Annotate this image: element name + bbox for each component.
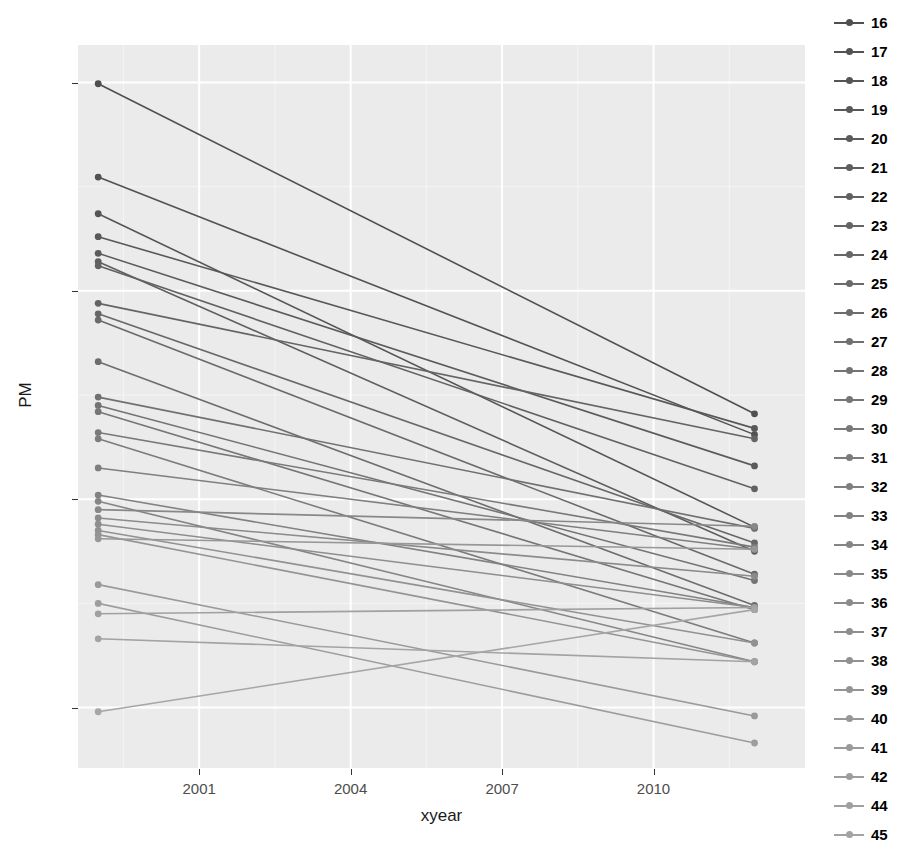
- y-axis-title: PM: [16, 355, 36, 435]
- legend-label: 42: [871, 768, 887, 785]
- legend-dot-icon: [846, 164, 853, 171]
- legend-dot-icon: [846, 77, 853, 84]
- legend-item-37[interactable]: 37: [820, 617, 913, 646]
- legend-item-26[interactable]: 26: [820, 298, 913, 327]
- legend-key-icon: [834, 594, 864, 612]
- plot-panel: [78, 45, 805, 768]
- legend-label: 38: [871, 652, 887, 669]
- plot-canvas: [78, 45, 805, 768]
- legend-item-25[interactable]: 25: [820, 269, 913, 298]
- legend-key-icon: [834, 797, 864, 815]
- legend-key-icon: [834, 275, 864, 293]
- legend-key-icon: [834, 449, 864, 467]
- legend-item-34[interactable]: 34: [820, 530, 913, 559]
- x-tick-label: 2004: [311, 780, 391, 797]
- legend-dot-icon: [846, 657, 853, 664]
- legend-dot-icon: [846, 309, 853, 316]
- legend-item-42[interactable]: 42: [820, 762, 913, 791]
- legend-item-16[interactable]: 16: [820, 8, 913, 37]
- legend-item-40[interactable]: 40: [820, 704, 913, 733]
- legend-key-icon: [834, 72, 864, 90]
- legend-key-icon: [834, 420, 864, 438]
- legend-item-45[interactable]: 45: [820, 820, 913, 849]
- legend-key-icon: [834, 565, 864, 583]
- legend-item-30[interactable]: 30: [820, 414, 913, 443]
- legend-key-icon: [834, 217, 864, 235]
- legend-dot-icon: [846, 222, 853, 229]
- legend-key-icon: [834, 391, 864, 409]
- legend-item-38[interactable]: 38: [820, 646, 913, 675]
- legend-item-32[interactable]: 32: [820, 472, 913, 501]
- legend-item-29[interactable]: 29: [820, 385, 913, 414]
- x-tick-label: 2007: [462, 780, 542, 797]
- legend-dot-icon: [846, 48, 853, 55]
- legend-item-23[interactable]: 23: [820, 211, 913, 240]
- y-tick-mark: [72, 708, 78, 709]
- legend-label: 33: [871, 507, 887, 524]
- x-tick-mark: [199, 769, 200, 775]
- legend-dot-icon: [846, 135, 853, 142]
- legend-key-icon: [834, 739, 864, 757]
- legend-item-22[interactable]: 22: [820, 182, 913, 211]
- legend-dot-icon: [846, 251, 853, 258]
- legend-key-icon: [834, 130, 864, 148]
- x-tick-mark: [351, 769, 352, 775]
- legend-key-icon: [834, 623, 864, 641]
- legend-item-21[interactable]: 21: [820, 153, 913, 182]
- legend-key-icon: [834, 304, 864, 322]
- legend-dot-icon: [846, 106, 853, 113]
- legend-label: 30: [871, 420, 887, 437]
- legend-item-20[interactable]: 20: [820, 124, 913, 153]
- legend-label: 25: [871, 275, 887, 292]
- legend-key-icon: [834, 768, 864, 786]
- legend-dot-icon: [846, 831, 853, 838]
- legend-item-44[interactable]: 44: [820, 791, 913, 820]
- legend-item-28[interactable]: 28: [820, 356, 913, 385]
- x-tick-mark: [502, 769, 503, 775]
- legend-dot-icon: [846, 193, 853, 200]
- legend-dot-icon: [846, 396, 853, 403]
- legend-key-icon: [834, 507, 864, 525]
- legend-item-35[interactable]: 35: [820, 559, 913, 588]
- legend-key-icon: [834, 14, 864, 32]
- legend-label: 20: [871, 130, 887, 147]
- legend-item-31[interactable]: 31: [820, 443, 913, 472]
- x-axis-title: xyear: [78, 806, 805, 826]
- legend-item-24[interactable]: 24: [820, 240, 913, 269]
- legend-dot-icon: [846, 802, 853, 809]
- legend-item-17[interactable]: 17: [820, 37, 913, 66]
- legend-item-18[interactable]: 18: [820, 66, 913, 95]
- legend-dot-icon: [846, 338, 853, 345]
- legend-key-icon: [834, 246, 864, 264]
- legend-dot-icon: [846, 483, 853, 490]
- legend-key-icon: [834, 652, 864, 670]
- legend-label: 27: [871, 333, 887, 350]
- legend-dot-icon: [846, 686, 853, 693]
- legend-dot-icon: [846, 570, 853, 577]
- legend-dot-icon: [846, 773, 853, 780]
- plot-area: 5101520 2001200420072010 xyear PM: [0, 0, 820, 852]
- legend-item-27[interactable]: 27: [820, 327, 913, 356]
- legend-label: 31: [871, 449, 887, 466]
- legend-label: 39: [871, 681, 887, 698]
- legend-dot-icon: [846, 599, 853, 606]
- legend-item-39[interactable]: 39: [820, 675, 913, 704]
- legend-item-41[interactable]: 41: [820, 733, 913, 762]
- y-tick-mark: [72, 83, 78, 84]
- legend-dot-icon: [846, 19, 853, 26]
- legend-key-icon: [834, 43, 864, 61]
- legend-item-36[interactable]: 36: [820, 588, 913, 617]
- legend-label: 29: [871, 391, 887, 408]
- x-tick-label: 2001: [159, 780, 239, 797]
- legend-label: 44: [871, 797, 887, 814]
- legend-label: 19: [871, 101, 887, 118]
- legend-key-icon: [834, 478, 864, 496]
- legend-item-33[interactable]: 33: [820, 501, 913, 530]
- legend: 1617181920212223242526272829303132333435…: [820, 0, 913, 852]
- legend-label: 40: [871, 710, 887, 727]
- legend-item-19[interactable]: 19: [820, 95, 913, 124]
- legend-key-icon: [834, 159, 864, 177]
- legend-label: 18: [871, 72, 887, 89]
- legend-label: 41: [871, 739, 887, 756]
- legend-label: 32: [871, 478, 887, 495]
